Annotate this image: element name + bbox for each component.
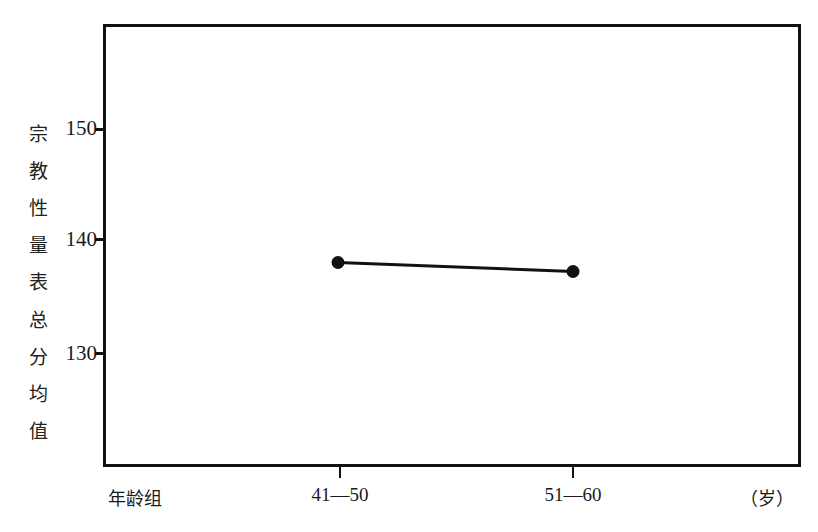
plot-area bbox=[0, 0, 818, 532]
data-point bbox=[332, 256, 345, 269]
series-line bbox=[338, 263, 573, 272]
data-point bbox=[567, 265, 580, 278]
